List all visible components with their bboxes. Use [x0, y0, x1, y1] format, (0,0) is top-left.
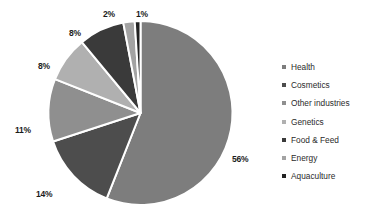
- slice-percentage-label: 2%: [103, 10, 115, 19]
- pie-chart: 56%14%11%8%8%2%1% HealthCosmeticsOther i…: [0, 0, 382, 217]
- legend-item-label: Genetics: [291, 118, 324, 126]
- legend-item-label: Other industries: [291, 99, 350, 107]
- legend-item-label: Aquaculture: [291, 172, 335, 180]
- legend-item: Other industries: [282, 94, 382, 112]
- legend-swatch-icon: [282, 65, 286, 69]
- legend-swatch-icon: [282, 101, 286, 105]
- slice-percentage-label: 8%: [69, 29, 81, 38]
- legend-item-label: Health: [291, 63, 315, 71]
- legend-swatch-icon: [282, 156, 286, 160]
- legend-item: Genetics: [282, 113, 382, 131]
- legend-item: Aquaculture: [282, 167, 382, 185]
- pie-plot-area: 56%14%11%8%8%2%1%: [0, 0, 272, 217]
- legend-swatch-icon: [282, 138, 286, 142]
- legend-item: Food & Feed: [282, 131, 382, 149]
- chart-legend: HealthCosmeticsOther industriesGeneticsF…: [272, 0, 382, 217]
- legend-swatch-icon: [282, 120, 286, 124]
- legend-item: Cosmetics: [282, 76, 382, 94]
- slice-percentage-label: 1%: [136, 10, 148, 19]
- legend-swatch-icon: [282, 174, 286, 178]
- pie-slice-group: [48, 21, 232, 205]
- legend-swatch-icon: [282, 83, 286, 87]
- slice-percentage-label: 8%: [38, 62, 50, 71]
- legend-item-label: Cosmetics: [291, 81, 330, 89]
- slice-percentage-label: 11%: [15, 126, 31, 135]
- legend-item-label: Food & Feed: [291, 136, 339, 144]
- pie-graphic: [0, 0, 272, 217]
- legend-item-label: Energy: [291, 154, 317, 162]
- slice-percentage-label: 14%: [36, 190, 52, 199]
- legend-item: Energy: [282, 149, 382, 167]
- slice-percentage-label: 56%: [232, 155, 248, 164]
- legend-item: Health: [282, 58, 382, 76]
